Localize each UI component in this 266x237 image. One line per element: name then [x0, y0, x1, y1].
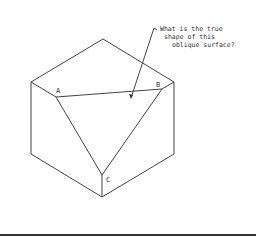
- note-line-3: oblique surface?: [172, 41, 235, 49]
- edge-right-to-b: [162, 82, 174, 89]
- oblique-surface: [56, 89, 162, 175]
- label-a: A: [56, 87, 61, 95]
- edge-left-to-a: [31, 82, 56, 97]
- leader-line: [131, 28, 157, 98]
- cube-top-face: [31, 39, 174, 82]
- label-b: B: [156, 81, 160, 89]
- label-c: C: [106, 176, 110, 184]
- note-line-1: What is the true: [160, 25, 223, 33]
- cube-diagram: A B C What is the true shape of this obl…: [0, 0, 266, 237]
- note-line-2: shape of this: [164, 33, 215, 41]
